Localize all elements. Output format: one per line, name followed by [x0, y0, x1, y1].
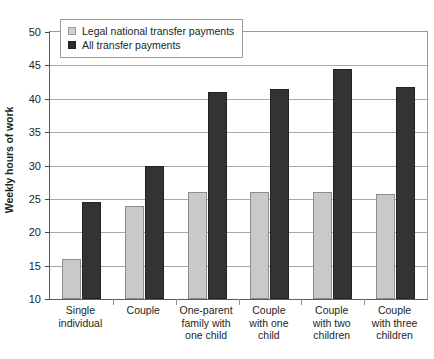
- x-axis-category-label: Couplewith threechildren: [363, 304, 426, 342]
- bar: [145, 166, 164, 300]
- bar: [376, 194, 395, 299]
- legend-item-label: Legal national transfer payments: [82, 25, 234, 37]
- bar: [333, 69, 352, 299]
- legend-item: Legal national transfer payments: [68, 24, 234, 38]
- legend-swatch-light-icon: [68, 27, 76, 35]
- x-axis-category-label: Singleindividual: [49, 304, 112, 329]
- y-axis-tick-label: 35: [29, 126, 41, 138]
- gridline: [50, 99, 427, 100]
- bar: [270, 89, 289, 299]
- gridline: [50, 199, 427, 200]
- y-axis-tick: [45, 299, 50, 300]
- x-axis-category-label: Couplewith twochildren: [300, 304, 363, 342]
- y-axis-tick-label: 10: [29, 293, 41, 305]
- bar: [188, 192, 207, 299]
- y-axis-tick: [45, 65, 50, 66]
- y-axis-tick: [45, 132, 50, 133]
- y-axis-tick: [45, 232, 50, 233]
- y-axis-tick-label: 25: [29, 193, 41, 205]
- y-axis-title-text: Weekly hours of work: [3, 107, 15, 213]
- gridline: [50, 132, 427, 133]
- y-axis-title: Weekly hours of work: [0, 0, 18, 320]
- x-axis-labels: SingleindividualCoupleOne-parentfamily w…: [49, 304, 430, 359]
- gridline: [50, 65, 427, 66]
- bar: [396, 87, 415, 299]
- y-axis-tick-label: 50: [29, 26, 41, 38]
- legend-item: All transfer payments: [68, 38, 234, 52]
- bar: [125, 206, 144, 299]
- y-axis-tick: [45, 32, 50, 33]
- legend-item-label: All transfer payments: [82, 39, 181, 51]
- y-axis-tick: [45, 166, 50, 167]
- bar-chart: Weekly hours of work 101520253035404550 …: [0, 0, 434, 359]
- chart-legend: Legal national transfer payments All tra…: [60, 19, 243, 58]
- gridline: [50, 266, 427, 267]
- gridline: [50, 166, 427, 167]
- y-axis-tick-label: 30: [29, 160, 41, 172]
- bar: [82, 202, 101, 299]
- y-axis-tick: [45, 266, 50, 267]
- y-axis-tick-label: 40: [29, 93, 41, 105]
- bar: [208, 92, 227, 299]
- plot-area: 101520253035404550: [49, 31, 428, 300]
- bar: [313, 192, 332, 299]
- legend-swatch-dark-icon: [68, 41, 76, 49]
- y-axis-tick-label: 15: [29, 260, 41, 272]
- y-axis-tick: [45, 199, 50, 200]
- x-axis-category-label: Couple: [112, 304, 175, 317]
- bar: [62, 259, 81, 299]
- gridline: [50, 232, 427, 233]
- y-axis-tick-label: 45: [29, 59, 41, 71]
- x-axis-category-label: Couplewith onechild: [238, 304, 301, 342]
- x-axis-category-label: One-parentfamily withone child: [175, 304, 238, 342]
- y-axis-tick: [45, 99, 50, 100]
- bar: [250, 192, 269, 299]
- plot-inner: 101520253035404550: [50, 32, 427, 299]
- y-axis-tick-label: 20: [29, 226, 41, 238]
